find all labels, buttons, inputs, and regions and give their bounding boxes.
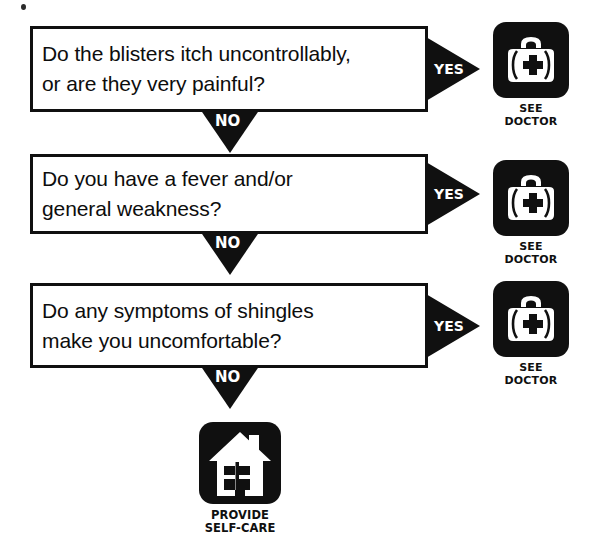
no-label-1: NO [215,112,240,130]
question-2-line-1: Do you have a fever and/or [33,164,425,194]
outcome-4-label-line-2: SELF-CARE [190,522,290,535]
outcome-3-label-line-2: DOCTOR [491,375,571,388]
question-box-3[interactable]: Do any symptoms of shingles make you unc… [30,283,428,368]
outcome-1-label-line-1: SEE [491,103,571,116]
question-1-line-2: or are they very painful? [33,69,425,99]
scan-speckle-artifact [21,4,26,10]
outcome-see-doctor-2[interactable]: SEE DOCTOR [491,160,571,266]
yes-label-2: YES [434,186,464,202]
yes-label-3: YES [434,318,464,334]
house-icon [199,422,281,504]
outcome-provide-self-care[interactable]: PROVIDE SELF-CARE [190,422,290,534]
question-3-line-1: Do any symptoms of shingles [33,296,425,326]
question-1-line-1: Do the blisters itch uncontrollably, [33,39,425,69]
question-box-1[interactable]: Do the blisters itch uncontrollably, or … [30,26,428,112]
yes-label-1: YES [434,61,464,77]
medical-bag-icon [493,22,569,98]
medical-bag-icon [493,281,569,357]
question-box-2[interactable]: Do you have a fever and/or general weakn… [30,154,428,234]
no-label-2: NO [215,234,240,252]
question-2-line-2: general weakness? [33,194,425,224]
medical-bag-icon [493,160,569,236]
outcome-see-doctor-1[interactable]: SEE DOCTOR [491,22,571,128]
question-3-line-2: make you uncomfortable? [33,326,425,356]
outcome-2-label-line-1: SEE [491,241,571,254]
outcome-see-doctor-3[interactable]: SEE DOCTOR [491,281,571,387]
outcome-2-label-line-2: DOCTOR [491,254,571,267]
outcome-1-label-line-2: DOCTOR [491,116,571,129]
outcome-4-label-line-1: PROVIDE [190,509,290,522]
outcome-3-label-line-1: SEE [491,362,571,375]
flowchart-canvas: Do the blisters itch uncontrollably, or … [0,0,590,548]
no-label-3: NO [215,368,240,386]
